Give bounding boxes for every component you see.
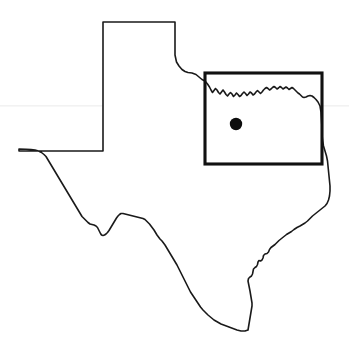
site-location-dot <box>230 118 242 130</box>
texas-map-figure: Outline map of the state of Texas with a… <box>0 0 349 353</box>
map-canvas <box>0 0 349 353</box>
